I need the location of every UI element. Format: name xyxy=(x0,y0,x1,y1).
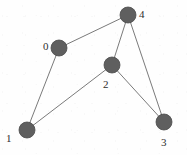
graph-edge-2-3 xyxy=(112,65,164,122)
graph-node-label-0: 0 xyxy=(43,41,49,52)
graph-node-4[interactable] xyxy=(120,7,136,23)
graph-node-label-4: 4 xyxy=(139,9,145,20)
graph-node-1[interactable] xyxy=(19,122,35,138)
graph-node-label-2: 2 xyxy=(103,79,109,90)
edge-layer xyxy=(27,15,164,130)
graph-node-0[interactable] xyxy=(51,40,67,56)
graph-node-label-3: 3 xyxy=(161,137,167,148)
graph-edge-0-4 xyxy=(59,15,128,48)
graph-edge-3-4 xyxy=(128,15,164,122)
graph-node-2[interactable] xyxy=(104,57,120,73)
graph-node-label-1: 1 xyxy=(6,133,12,144)
graph-canvas xyxy=(0,0,187,155)
graph-diagram: 01234 xyxy=(0,0,187,155)
graph-node-3[interactable] xyxy=(156,114,172,130)
